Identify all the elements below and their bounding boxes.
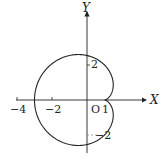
y-axis-label: Y <box>82 1 91 15</box>
y-tick-label-2: 2 <box>91 58 98 71</box>
x-tick-label-minus4: −4 <box>10 103 26 116</box>
cardioid-diagram: Y X O −4 −2 1 2 −2 <box>0 0 164 160</box>
x-tick-label-minus2: −2 <box>45 103 61 116</box>
y-tick-label-minus2: −2 <box>95 129 111 142</box>
x-axis-label: X <box>149 93 159 107</box>
x-tick-label-1: 1 <box>102 103 109 116</box>
origin-label: O <box>91 103 100 116</box>
